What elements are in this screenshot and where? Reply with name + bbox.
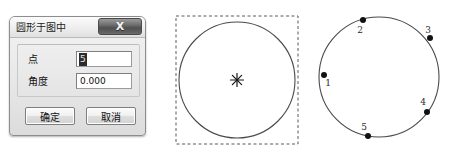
point-label-4: 4	[420, 97, 426, 107]
dialog-titlebar[interactable]: 圆形于图中 X	[10, 17, 145, 38]
circle-bounding-box-diagram	[166, 8, 308, 152]
point-label-1: 1	[325, 78, 331, 88]
dialog-title: 圆形于图中	[16, 21, 66, 34]
angle-input[interactable]: 0.000	[76, 73, 132, 89]
numbered-points-circle-diagram: 1 2 3 4 5	[316, 4, 452, 154]
point-marker-4	[424, 109, 430, 115]
close-icon: X	[99, 19, 141, 34]
angle-input-value: 0.000	[80, 75, 106, 88]
point-label-2: 2	[357, 25, 363, 35]
points-circle-shape	[319, 17, 439, 137]
point-marker-2	[360, 17, 366, 23]
point-label-3: 3	[425, 25, 431, 35]
angle-field-label: 角度	[28, 75, 48, 89]
point-marker-3	[427, 35, 433, 41]
point-label-5: 5	[361, 122, 367, 132]
point-marker-5	[365, 133, 371, 139]
field-row-angle: 角度 0.000	[18, 73, 139, 91]
asterisk-node-icon	[231, 74, 244, 87]
point-input[interactable]: 5	[76, 51, 132, 67]
close-button[interactable]: X	[98, 18, 142, 35]
field-row-point: 点 5	[18, 51, 139, 69]
cancel-button[interactable]: 取消	[86, 107, 136, 125]
ok-button[interactable]: 确定	[25, 107, 75, 125]
point-input-value: 5	[79, 53, 87, 66]
dialog-form-panel: 点 5 角度 0.000	[17, 44, 140, 97]
circle-in-figure-dialog: 圆形于图中 X 点 5 角度 0.000 确定 取消	[9, 16, 146, 136]
point-labels: 1 2 3 4 5	[325, 25, 431, 132]
point-field-label: 点	[28, 53, 38, 67]
